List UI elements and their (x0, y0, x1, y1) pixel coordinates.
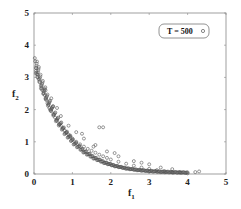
y-tick-label: 2 (25, 105, 30, 115)
legend: T = 500 (159, 24, 209, 38)
y-tick-label: 1 (25, 137, 30, 147)
data-point (109, 158, 112, 161)
data-point (194, 171, 197, 174)
data-point (132, 160, 135, 163)
x-tick-label: 5 (224, 177, 229, 187)
data-point (98, 126, 101, 129)
scatter-chart: 012345012345 f1 f2 T = 500 (0, 0, 241, 209)
x-axis-label: f1 (128, 187, 135, 201)
x-tick-label: 3 (147, 177, 152, 187)
data-point (67, 124, 70, 127)
y-tick-label: 0 (25, 169, 30, 179)
data-point (81, 132, 84, 135)
data-point (113, 152, 116, 155)
data-point (90, 149, 93, 152)
data-point (36, 60, 39, 63)
data-point (140, 161, 143, 164)
y-tick-label: 4 (25, 40, 30, 50)
data-point (125, 162, 128, 165)
x-tick-label: 0 (32, 177, 37, 187)
data-point (98, 153, 101, 156)
y-tick-label: 5 (25, 8, 30, 18)
legend-label: T = 500 (167, 27, 193, 36)
data-point (92, 145, 95, 148)
data-point (94, 151, 97, 154)
data-point (56, 106, 59, 109)
data-point (198, 170, 201, 173)
x-tick-label: 4 (185, 177, 190, 187)
data-point (117, 155, 120, 158)
y-axis-label-text: f2 (12, 88, 19, 102)
data-point (105, 150, 108, 153)
x-tick-label: 2 (109, 177, 114, 187)
x-tick-label: 1 (70, 177, 75, 187)
data-point (102, 126, 105, 129)
y-tick-label: 3 (25, 72, 30, 82)
y-axis-label: f2 (12, 88, 19, 102)
data-point (117, 160, 120, 163)
data-point (94, 144, 97, 147)
data-point (102, 155, 105, 158)
data-point (159, 166, 162, 169)
data-point (148, 163, 151, 166)
data-point (82, 137, 85, 140)
data-point (132, 164, 135, 167)
data-point (75, 131, 78, 134)
data-points (33, 57, 200, 175)
x-axis-label-text: f1 (128, 187, 135, 201)
data-point (105, 156, 108, 159)
